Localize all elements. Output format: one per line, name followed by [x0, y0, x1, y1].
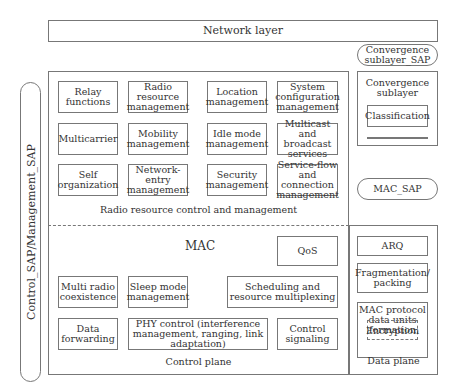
data-forwarding: Data forwarding	[58, 318, 118, 350]
sleep-mode: Sleep mode management	[128, 276, 188, 308]
mac-title: MAC	[150, 241, 250, 251]
convergence-sap: Convergence sublayer_SAP	[357, 44, 438, 66]
arq: ARQ	[357, 236, 428, 256]
network-layer: Network layer	[48, 20, 438, 42]
multicast-broadcast: Multicast and broadcast services	[277, 123, 338, 155]
data-plane-title: Data plane	[349, 356, 438, 366]
fragmentation: Fragmentation/ packing	[357, 263, 428, 293]
scheduling: Scheduling and resource multiplexing	[227, 276, 338, 308]
security-mgmt: Security management	[207, 164, 267, 196]
rrcm-title: Radio resource control and management	[48, 205, 349, 215]
encryption: Encryption	[367, 320, 418, 340]
divider	[48, 225, 349, 226]
location-mgmt: Location management	[207, 81, 267, 113]
network-entry-mgmt: Network-entry management	[128, 164, 188, 196]
convergence-title: Convergence sublayer	[357, 78, 438, 98]
mobility-mgmt: Mobility management	[128, 123, 188, 155]
multicarrier: Multicarrier	[58, 123, 118, 155]
relay-functions: Relay functions	[58, 81, 118, 113]
control-management-sap-label: Control_SAP/Management_SAP	[25, 144, 38, 320]
self-organization: Self organization	[58, 164, 118, 196]
control-signaling: Control signaling	[277, 318, 338, 350]
idle-mode-mgmt: Idle mode management	[207, 123, 267, 155]
mac-sap: MAC_SAP	[357, 178, 438, 200]
phy-control: PHY control (interference management, ra…	[128, 318, 268, 350]
multi-radio: Multi radio coexistence	[58, 276, 118, 308]
radio-resource-mgmt: Radio resource management	[128, 81, 188, 113]
qos: QoS	[277, 236, 338, 266]
service-flow-mgmt: Service-flow and connection management	[277, 164, 338, 196]
classification: Classification	[367, 105, 428, 127]
system-config-mgmt: System configuration management	[277, 81, 338, 113]
control-plane-title: Control plane	[48, 357, 349, 367]
